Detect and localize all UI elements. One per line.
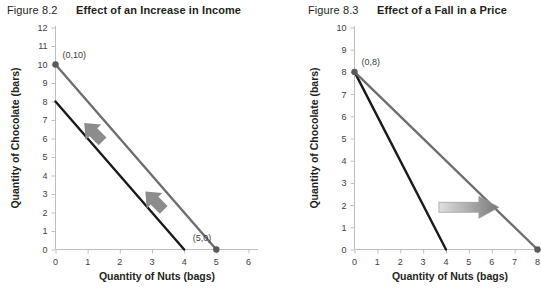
y-tick-label: 3 bbox=[341, 178, 346, 188]
x-tick-label: 2 bbox=[117, 257, 122, 267]
coordinate-label: (0,8) bbox=[362, 57, 381, 67]
y-tick-label: 0 bbox=[341, 245, 346, 255]
figure-page: Figure 8.2 Effect of an Increase in Inco… bbox=[0, 0, 541, 293]
y-tick-label: 6 bbox=[341, 112, 346, 122]
endpoint-marker bbox=[351, 69, 357, 75]
endpoint-marker bbox=[213, 246, 219, 252]
y-tick-label: 1 bbox=[341, 223, 346, 233]
figure-panel-8-3: Figure 8.3 Effect of a Fall in a Price 0… bbox=[270, 0, 541, 293]
endpoint-marker bbox=[534, 246, 540, 252]
y-tick-label: 2 bbox=[42, 208, 47, 218]
shift-arrows-group bbox=[76, 115, 171, 217]
x-tick-label: 4 bbox=[443, 257, 448, 267]
y-tick-label: 7 bbox=[42, 115, 47, 125]
x-tick-label: 5 bbox=[214, 257, 219, 267]
point-labels-group: (0,10)(5,0) bbox=[63, 50, 212, 243]
x-tick-label: 8 bbox=[535, 257, 540, 267]
figure-panel-8-2: Figure 8.2 Effect of an Increase in Inco… bbox=[0, 0, 271, 293]
point-labels-group: (0,8) bbox=[362, 57, 381, 67]
y-tick-label: 3 bbox=[42, 189, 47, 199]
y-tick-label: 7 bbox=[341, 90, 346, 100]
y-tick-label: 0 bbox=[42, 245, 47, 255]
x-axis-title: Quantity of Nuts (bags) bbox=[99, 270, 215, 282]
y-tick-label: 12 bbox=[37, 23, 47, 33]
y-tick-label: 10 bbox=[336, 23, 346, 33]
y-tick-label: 2 bbox=[341, 201, 346, 211]
x-tick-label: 3 bbox=[421, 257, 426, 267]
shift-arrow-horizontal bbox=[439, 196, 499, 218]
x-tick-label: 1 bbox=[85, 257, 90, 267]
data-series-group bbox=[52, 61, 219, 252]
y-tick-label: 9 bbox=[341, 45, 346, 55]
y-tick-label: 4 bbox=[341, 156, 346, 166]
x-tick-label: 7 bbox=[512, 257, 517, 267]
x-tick-label: 6 bbox=[246, 257, 251, 267]
y-tick-label: 8 bbox=[42, 97, 47, 107]
y-tick-label: 9 bbox=[42, 78, 47, 88]
shift-arrows-group bbox=[439, 196, 499, 218]
x-tick-label: 2 bbox=[398, 257, 403, 267]
cut-off-body-text bbox=[0, 286, 541, 293]
arrow-glyph bbox=[439, 196, 499, 218]
coordinate-label: (5,0) bbox=[193, 233, 212, 243]
chart-8-3: 012345678910012345678 (0,8) Quantity of … bbox=[270, 0, 541, 293]
x-tick-label: 4 bbox=[182, 257, 187, 267]
endpoint-marker bbox=[52, 61, 58, 67]
y-tick-label: 5 bbox=[42, 152, 47, 162]
x-tick-label: 5 bbox=[466, 257, 471, 267]
y-tick-label: 4 bbox=[42, 171, 47, 181]
y-tick-label: 1 bbox=[42, 226, 47, 236]
x-tick-label: 0 bbox=[352, 257, 357, 267]
chart-8-2: 01234567891011120123456 (0,10)(5,0) Quan… bbox=[0, 0, 271, 293]
x-axis-title: Quantity of Nuts (bags) bbox=[392, 270, 508, 282]
data-series-group bbox=[351, 69, 540, 253]
x-tick-label: 6 bbox=[489, 257, 494, 267]
y-tick-label: 11 bbox=[38, 41, 47, 51]
y-tick-label: 6 bbox=[42, 134, 47, 144]
y-axis-title: Quantity of Chocolate (bars) bbox=[308, 67, 320, 208]
y-tick-label: 5 bbox=[341, 134, 346, 144]
x-tick-label: 1 bbox=[375, 257, 380, 267]
budget-line-original bbox=[355, 72, 447, 250]
y-axis-title: Quantity of Chocolate (bars) bbox=[9, 67, 21, 208]
budget-line-new bbox=[56, 65, 217, 250]
y-tick-label: 10 bbox=[37, 60, 47, 70]
budget-line-new bbox=[355, 72, 538, 250]
budget-line-original bbox=[56, 102, 185, 250]
x-tick-label: 0 bbox=[53, 257, 58, 267]
y-tick-label: 8 bbox=[341, 67, 346, 77]
x-tick-label: 3 bbox=[149, 257, 154, 267]
coordinate-label: (0,10) bbox=[63, 50, 87, 60]
